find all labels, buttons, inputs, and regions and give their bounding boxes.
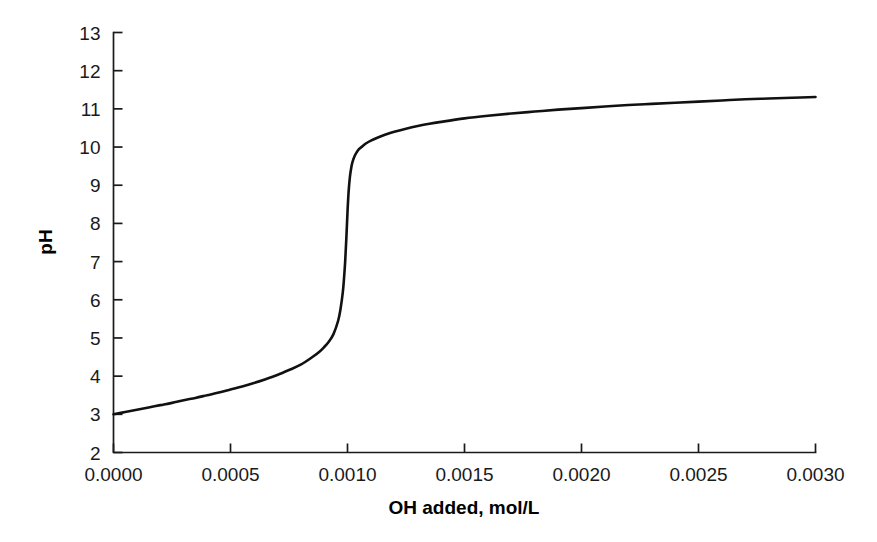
data-series-titration-curve: [114, 97, 816, 414]
y-tick-label: 7: [90, 252, 101, 273]
x-axis-tick-marks: [114, 444, 816, 453]
x-tick-label: 0.0000: [84, 464, 142, 485]
x-tick-label: 0.0015: [435, 464, 493, 485]
y-tick-label: 4: [90, 366, 101, 387]
y-tick-label: 10: [79, 137, 100, 158]
x-tick-label: 0.0020: [552, 464, 610, 485]
y-axis-tick-marks: [114, 33, 123, 453]
x-axis-title: OH added, mol/L: [389, 497, 540, 518]
y-tick-label: 6: [90, 290, 101, 311]
titration-curve-plot: 0.00000.00050.00100.00150.00200.00250.00…: [0, 0, 877, 542]
x-tick-label: 0.0025: [669, 464, 727, 485]
y-axis-tick-labels: 2345678910111213: [79, 23, 101, 464]
y-tick-label: 11: [81, 99, 101, 120]
x-tick-label: 0.0010: [318, 464, 376, 485]
axis-frame: [114, 33, 816, 453]
y-tick-label: 5: [90, 328, 101, 349]
x-tick-label: 0.0030: [786, 464, 844, 485]
y-axis-title: pH: [35, 229, 56, 254]
y-tick-label: 12: [79, 61, 100, 82]
y-tick-label: 3: [90, 404, 101, 425]
chart-figure: 0.00000.00050.00100.00150.00200.00250.00…: [0, 0, 877, 542]
x-axis-tick-labels: 0.00000.00050.00100.00150.00200.00250.00…: [84, 464, 844, 485]
y-tick-label: 9: [90, 175, 101, 196]
y-tick-label: 2: [90, 443, 101, 464]
x-tick-label: 0.0005: [201, 464, 259, 485]
y-tick-label: 8: [90, 213, 101, 234]
y-tick-label: 13: [79, 23, 100, 44]
